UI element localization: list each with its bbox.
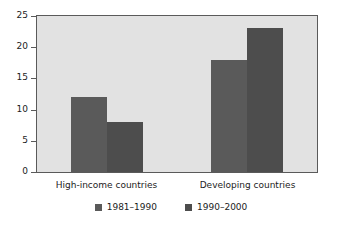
- y-axis-tick: [31, 78, 36, 79]
- bars-layer: [37, 16, 317, 172]
- y-axis-tick-label: 0: [2, 167, 28, 176]
- y-axis-tick-label: 25: [2, 11, 28, 20]
- legend-swatch-icon: [95, 204, 102, 211]
- legend-item[interactable]: 1981–1990: [95, 203, 157, 212]
- y-axis-tick-label: 20: [2, 42, 28, 51]
- y-axis-tick: [31, 141, 36, 142]
- y-axis-tick: [31, 172, 36, 173]
- y-axis-tick-label: 15: [2, 73, 28, 82]
- x-axis-category-label: Developing countries: [177, 180, 318, 191]
- bar-chart: 0510152025 High-income countries Develop…: [0, 0, 342, 227]
- y-axis-tick: [31, 47, 36, 48]
- y-axis-tick-label: 10: [2, 105, 28, 114]
- chart-legend: 1981–1990 1990–2000: [0, 203, 342, 212]
- x-axis-category-label: High-income countries: [36, 180, 177, 191]
- bar: [211, 60, 247, 172]
- y-axis-tick: [31, 110, 36, 111]
- legend-item[interactable]: 1990–2000: [185, 203, 247, 212]
- y-axis-tick: [31, 16, 36, 17]
- legend-swatch-icon: [185, 204, 192, 211]
- bar: [107, 122, 143, 172]
- y-axis-tick-label: 5: [2, 136, 28, 145]
- legend-label: 1990–2000: [197, 203, 247, 212]
- legend-label: 1981–1990: [107, 203, 157, 212]
- bar: [71, 97, 107, 172]
- bar: [247, 28, 283, 172]
